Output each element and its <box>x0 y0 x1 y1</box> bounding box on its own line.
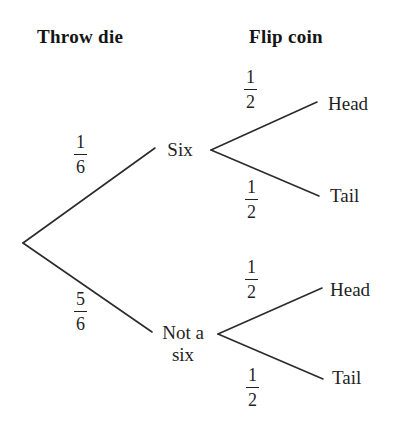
probability-six-denominator: 6 <box>73 158 88 176</box>
node-six: Six <box>160 139 200 161</box>
probability-tree-diagram: Throw die Flip coin Six Not a six Head T… <box>0 0 400 438</box>
probability-head-upper-denominator: 2 <box>243 93 258 111</box>
branch-six-to-tail <box>211 150 319 196</box>
branch-not-a-six-to-tail <box>218 334 323 379</box>
outcome-tail-lower: Tail <box>332 367 361 389</box>
probability-head-lower-numerator: 1 <box>244 258 259 276</box>
probability-head-upper: 1 2 <box>243 68 258 111</box>
probability-head-upper-numerator: 1 <box>243 68 258 86</box>
probability-head-lower-denominator: 2 <box>244 283 259 301</box>
probability-tail-lower-denominator: 2 <box>245 391 260 409</box>
probability-tail-upper: 1 2 <box>244 178 259 221</box>
fraction-bar <box>74 154 87 155</box>
node-not-a-six: Not a six <box>152 322 214 366</box>
column-header-throw-die: Throw die <box>37 26 123 48</box>
probability-six: 1 6 <box>73 133 88 176</box>
node-not-a-six-line1: Not a <box>162 322 204 343</box>
outcome-tail-upper: Tail <box>330 185 359 207</box>
column-header-flip-coin: Flip coin <box>249 26 323 48</box>
probability-tail-upper-denominator: 2 <box>244 203 259 221</box>
probability-tail-lower: 1 2 <box>245 366 260 409</box>
fraction-bar <box>244 89 257 90</box>
fraction-bar <box>246 387 259 388</box>
probability-tail-lower-numerator: 1 <box>245 366 260 384</box>
probability-six-numerator: 1 <box>73 133 88 151</box>
fraction-bar <box>245 199 258 200</box>
fraction-bar <box>74 311 87 312</box>
node-not-a-six-line2: six <box>172 344 194 365</box>
probability-not-a-six-denominator: 6 <box>73 315 88 333</box>
branch-root-to-six <box>23 148 155 243</box>
probability-head-lower: 1 2 <box>244 258 259 301</box>
branch-not-a-six-to-head <box>218 288 322 334</box>
probability-not-a-six-numerator: 5 <box>73 290 88 308</box>
fraction-bar <box>245 279 258 280</box>
probability-not-a-six: 5 6 <box>73 290 88 333</box>
probability-tail-upper-numerator: 1 <box>244 178 259 196</box>
outcome-head-lower: Head <box>330 279 370 301</box>
branch-six-to-head <box>211 102 317 150</box>
outcome-head-upper: Head <box>328 93 368 115</box>
